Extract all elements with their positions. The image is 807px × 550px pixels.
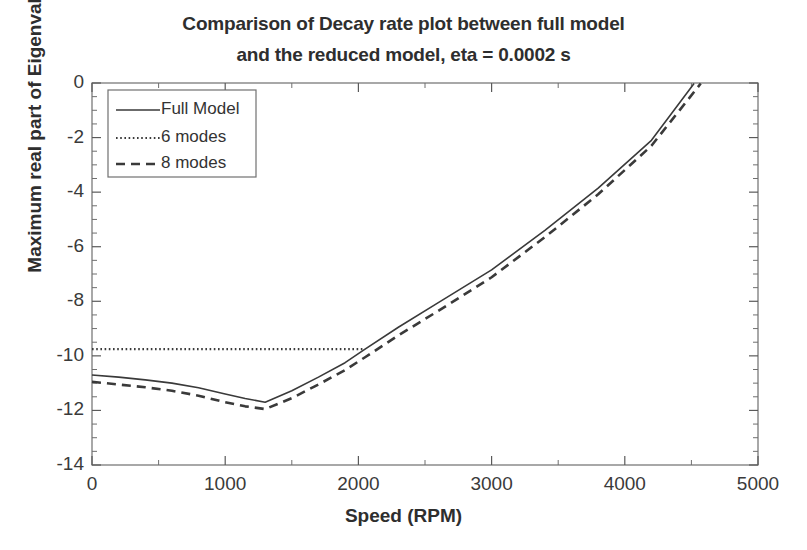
x-tick-label-4000: 4000 <box>585 473 665 495</box>
y-tick-label--2: -2 <box>67 126 84 148</box>
plot-canvas <box>0 0 807 550</box>
y-tick-label--12: -12 <box>57 398 84 420</box>
y-tick-label--4: -4 <box>67 180 84 202</box>
decay-rate-chart-figure: Comparison of Decay rate plot between fu… <box>0 0 807 550</box>
y-tick-label--14: -14 <box>57 453 84 475</box>
x-tick-label-0: 0 <box>52 473 132 495</box>
x-tick-label-3000: 3000 <box>452 473 532 495</box>
x-tick-label-1000: 1000 <box>185 473 265 495</box>
x-axis-label: Speed (RPM) <box>0 505 807 527</box>
y-tick-label--10: -10 <box>57 344 84 366</box>
x-tick-label-2000: 2000 <box>318 473 398 495</box>
x-tick-label-5000: 5000 <box>718 473 798 495</box>
y-axis-label-wrapper: Maximum real part of Eigenvalues <box>24 0 54 329</box>
y-tick-label--6: -6 <box>67 235 84 257</box>
y-tick-label-0: 0 <box>73 71 84 93</box>
legend-label-6-modes: 6 modes <box>161 127 226 147</box>
legend-label-full-model: Full Model <box>161 99 239 119</box>
y-tick-label--8: -8 <box>67 289 84 311</box>
legend-label-8-modes: 8 modes <box>161 153 226 173</box>
y-axis-label: Maximum real part of Eigenvalues <box>24 0 46 329</box>
